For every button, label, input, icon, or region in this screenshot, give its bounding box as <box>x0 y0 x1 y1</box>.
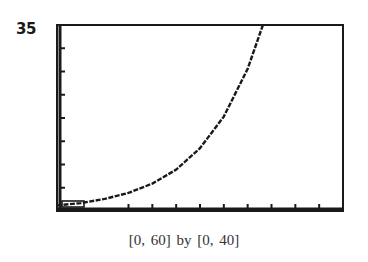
exponential-curve <box>57 25 263 205</box>
plot-frame <box>57 25 343 211</box>
calculator-graph <box>0 0 368 262</box>
window-caption: [0, 60] by [0, 40] <box>0 232 368 249</box>
